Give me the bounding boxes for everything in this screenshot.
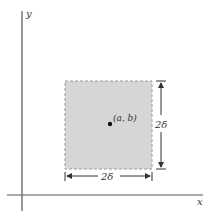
center-point: [108, 122, 112, 126]
height-dimension-label: 2δ: [154, 119, 167, 130]
width-dimension-label: 2δ: [100, 171, 113, 182]
x-axis-label: x: [197, 196, 203, 207]
y-axis-label: y: [25, 8, 32, 19]
center-point-label: (a, b): [113, 113, 137, 123]
diagram-canvas: y x (a, b) 2δ 2δ: [0, 0, 215, 217]
